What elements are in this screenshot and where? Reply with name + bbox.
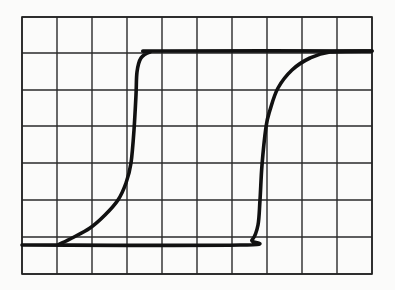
ascending-branch-trace [58,51,372,245]
oscilloscope-grid [0,0,395,290]
hysteresis-figure [0,0,395,290]
